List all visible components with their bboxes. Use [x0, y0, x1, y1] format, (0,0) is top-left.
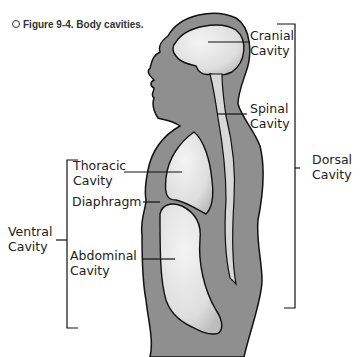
label-diaphragm: Diaphragm	[72, 194, 142, 209]
label-cranial-cavity: Cranial Cavity	[250, 28, 294, 58]
label-thoracic-cavity: Thoracic Cavity	[73, 158, 126, 188]
label-spinal-cavity: Spinal Cavity	[250, 101, 290, 131]
dorsal-bracket	[277, 24, 295, 308]
label-ventral-cavity: Ventral Cavity	[8, 224, 52, 254]
body-cavities-diagram	[0, 0, 364, 357]
label-abdominal-cavity: Abdominal Cavity	[70, 248, 137, 278]
label-dorsal-cavity: Dorsal Cavity	[312, 152, 352, 182]
